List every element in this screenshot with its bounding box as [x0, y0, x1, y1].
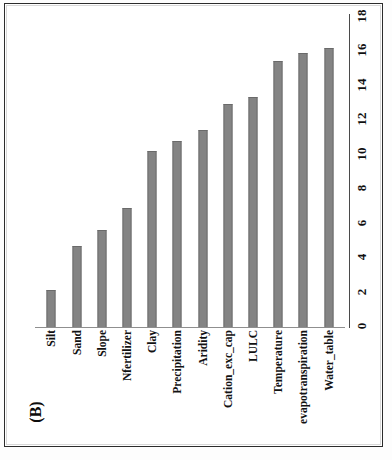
bar-slot [316, 17, 341, 327]
category-slot: Precipitation [165, 330, 190, 442]
value-tick-label: 18 [353, 0, 371, 33]
category-slot: Slope [89, 330, 114, 442]
value-tick-label: 12 [353, 102, 371, 136]
category-slot: Clay [140, 330, 165, 442]
category-label: Cation_exc_cap [222, 330, 234, 408]
bar-slot [39, 17, 64, 327]
category-label: Slope [96, 330, 108, 357]
category-slot: Cation_exc_cap [215, 330, 240, 442]
category-slot: Sand [64, 330, 89, 442]
value-tick-label: 14 [353, 68, 371, 102]
category-slot: Temperature [266, 330, 291, 442]
bar [198, 130, 207, 326]
category-label: LULC [247, 330, 259, 362]
category-slot: Aridity [190, 330, 215, 442]
figure-border: 181614121086420 SiltSandSlopeNfertilizer… [4, 3, 383, 447]
panel-label: (B) [23, 389, 49, 435]
bar [274, 61, 283, 326]
bar-series [35, 17, 345, 327]
category-label: evapotranspiration [297, 330, 309, 424]
bar [72, 246, 81, 327]
bar-slot [190, 17, 215, 327]
category-slot: Water_table [316, 330, 341, 442]
category-label: Aridity [197, 330, 209, 366]
bar-slot [240, 17, 265, 327]
bar-slot [291, 17, 316, 327]
bar-slot [215, 17, 240, 327]
category-axis-line [35, 327, 345, 329]
bar-slot [114, 17, 139, 327]
category-axis-labels: SiltSandSlopeNfertilizerClayPrecipitatio… [35, 330, 345, 442]
bar-slot [266, 17, 291, 327]
value-tick-label: 10 [353, 137, 371, 171]
bar [47, 290, 56, 326]
bar [173, 141, 182, 327]
category-label: Clay [146, 330, 158, 353]
panel-label-text: (B) [27, 401, 45, 422]
category-slot: LULC [240, 330, 265, 442]
category-label: Sand [71, 330, 83, 355]
category-slot: Nfertilizer [114, 330, 139, 442]
bar-slot [140, 17, 165, 327]
category-slot: evapotranspiration [291, 330, 316, 442]
value-tick-label: 8 [353, 171, 371, 205]
plot-area [35, 16, 345, 328]
bar [299, 53, 308, 327]
value-tick-label: 16 [353, 33, 371, 67]
value-tick-label: 4 [353, 240, 371, 274]
category-label: Silt [45, 330, 57, 347]
bar [249, 97, 258, 326]
value-tick-label: 0 [353, 309, 371, 343]
value-axis-ticks: 181614121086420 [345, 16, 379, 328]
value-tick-label: 2 [353, 275, 371, 309]
bar-slot [89, 17, 114, 327]
figure-panel-b: 181614121086420 SiltSandSlopeNfertilizer… [0, 0, 392, 460]
bar-slot [64, 17, 89, 327]
bar [324, 48, 333, 327]
category-label: Precipitation [171, 330, 183, 394]
category-label: Temperature [272, 330, 284, 394]
bar [97, 230, 106, 326]
value-tick-label: 6 [353, 206, 371, 240]
bar [122, 208, 131, 327]
bar [223, 104, 232, 326]
category-label: Water_table [323, 330, 335, 391]
bar-slot [165, 17, 190, 327]
category-label: Nfertilizer [121, 330, 133, 381]
bar [148, 151, 157, 327]
